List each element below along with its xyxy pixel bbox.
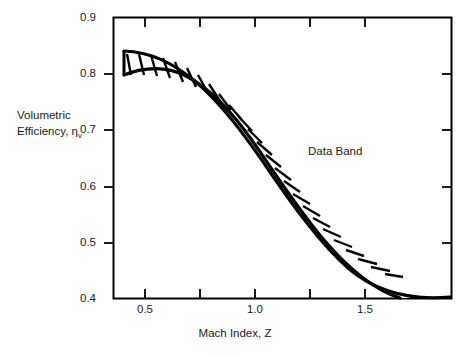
x-axis-title: Mach Index, Z xyxy=(0,326,470,342)
data-band-lower-curve xyxy=(124,69,400,298)
y-tick-label-0.8: 0.8 xyxy=(62,67,96,79)
x-tick-label-1.5: 1.5 xyxy=(345,303,385,315)
data-band-fill xyxy=(124,51,450,298)
x-tick-label-0.5: 0.5 xyxy=(125,303,165,315)
data-band-upper-curve xyxy=(124,51,450,298)
y-axis-title-line1: Volumetric xyxy=(17,108,82,124)
y-tick-label-0.6: 0.6 xyxy=(62,180,96,192)
x-tick-label-1.0: 1.0 xyxy=(235,303,275,315)
y-tick-label-0.4: 0.4 xyxy=(62,292,96,304)
y-tick-label-0.5: 0.5 xyxy=(62,236,96,248)
chart-figure: Volumetric Efficiency, ηv Mach Index, Z … xyxy=(0,0,470,356)
y-tick-label-0.7: 0.7 xyxy=(62,123,96,135)
y-tick-label-0.9: 0.9 xyxy=(62,11,96,23)
data-band-annotation-label: Data Band xyxy=(308,145,362,157)
